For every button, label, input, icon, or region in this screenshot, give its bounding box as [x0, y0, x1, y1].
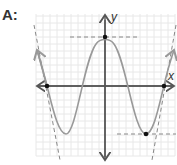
chart: y x: [0, 0, 177, 165]
y-label: y: [110, 10, 118, 24]
